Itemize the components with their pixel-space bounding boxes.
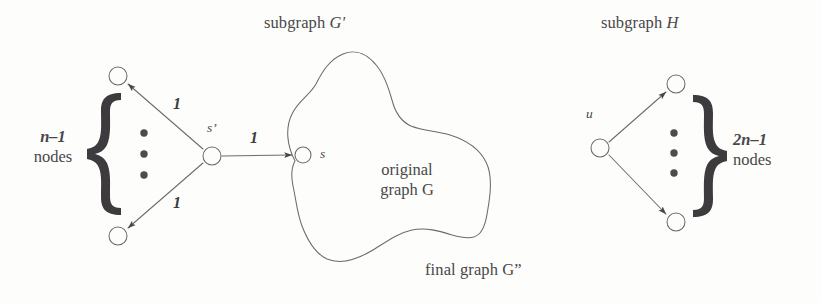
left-count-expression: n–1 xyxy=(22,127,84,147)
right-brace-count-label: 2n–1 nodes xyxy=(733,130,803,170)
label-s: s xyxy=(320,146,325,161)
right-count-expression: 2n–1 xyxy=(733,130,803,150)
paper-texture xyxy=(0,0,821,303)
blob-label: original graph G xyxy=(361,160,453,200)
diagram-svg xyxy=(0,0,821,303)
left-brace-count-label: n–1 nodes xyxy=(22,127,84,167)
right-count-nodes-word: nodes xyxy=(733,150,803,170)
label-u: u xyxy=(586,106,593,121)
figure-canvas: subgraph G' subgraph H final graph G” n–… xyxy=(0,0,821,303)
label-s-prime: s’ xyxy=(207,120,217,135)
caption-final-graph: final graph G” xyxy=(425,261,522,279)
left-count-nodes-word: nodes xyxy=(22,147,84,167)
caption-h-italic: H xyxy=(667,13,679,32)
edge-weight-top: 1 xyxy=(173,95,181,113)
caption-gprime-plain: subgraph xyxy=(264,13,330,32)
caption-h-plain: subgraph xyxy=(601,13,667,32)
edge-weight-bottom: 1 xyxy=(173,194,181,212)
edge-weight-right: 1 xyxy=(250,129,258,147)
blob-label-line2: graph G xyxy=(361,180,453,200)
caption-gprime-italic: G' xyxy=(330,13,346,32)
blob-label-line1: original xyxy=(361,160,453,180)
caption-subgraph-g-prime: subgraph G' xyxy=(264,14,345,32)
caption-subgraph-h: subgraph H xyxy=(601,14,679,32)
